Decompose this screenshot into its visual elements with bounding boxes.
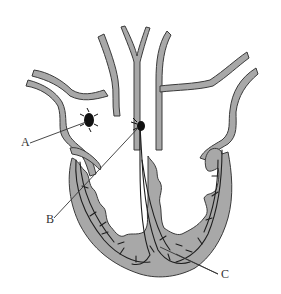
vessel-left-atrium [32, 70, 108, 100]
label-a: A [21, 136, 30, 148]
label-b: B [46, 213, 54, 225]
label-c: C [221, 268, 229, 280]
vessel-left-upper [98, 34, 120, 116]
vessel-right-branch [160, 52, 249, 92]
vessel-center-y [121, 26, 150, 150]
sa-node [80, 108, 98, 132]
heart-diagram [0, 0, 281, 294]
leader-line-a [30, 122, 86, 143]
